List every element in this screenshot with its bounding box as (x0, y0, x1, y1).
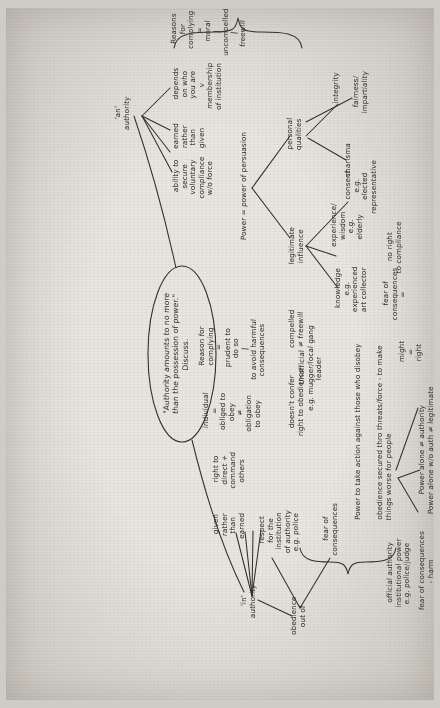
node-charisma: charisma (344, 136, 353, 185)
node-earned-rather-than-given: earned rather than given (172, 113, 206, 161)
mind-map-stage: "Authority amounts to no more than the p… (0, 0, 440, 708)
node-fear-consequences-harm: fear of consequences - harm (418, 527, 435, 614)
node-obedience-secured: obedience secured thro threats/force - t… (376, 323, 393, 520)
node-respect-institution: respect for the institution of authority… (258, 498, 301, 563)
node-legitimate-influence: legitimate influence (288, 219, 305, 272)
node-power-to-take-action: Power to take action against those who d… (354, 330, 363, 521)
node-no-right-to-compliance: no right to compliance (386, 213, 403, 280)
node-reasons-for-complying: Reasons for complying = moral | uncompel… (170, 0, 247, 63)
branch-an-authority-label: 'an' authority (114, 87, 131, 138)
node-might-is-right: might = right (398, 329, 424, 375)
node-fairness-impartiality: fairness/ impartiality (352, 63, 369, 120)
paper-sheet: "Authority amounts to no more than the p… (6, 8, 434, 700)
branch-obedience-label: obedience out of (290, 587, 307, 644)
node-personal-qualities: personal qualities (286, 107, 303, 160)
node-official-authority: official authority institutional power e… (386, 533, 412, 613)
node-fear-of-consequences: fear of consequences (322, 497, 339, 560)
node-reason-for-complying: Reason for complying = prudent to do so … (198, 312, 267, 385)
branch-power-alone-label: Power alone ≠ authority Power alone w/o … (418, 369, 435, 530)
node-given-rather-than-earned: given rather than earned (212, 501, 246, 549)
scanned-page: "Authority amounts to no more than the p… (0, 0, 440, 708)
node-integrity: integrity (332, 66, 341, 111)
node-depends-on-who: depends on who you are v membership of i… (172, 52, 224, 118)
branch-in-authority-label: 'in' authority (240, 571, 257, 630)
central-topic: "Authority amounts to no more than the p… (162, 283, 190, 425)
branch-power-persuasion-label: Power = power of persuasion (240, 116, 249, 257)
node-individual-obliged: individual = obliged to obey ≠ obligatio… (202, 382, 262, 442)
node-knowledge: knowledge e.g. experienced art collector (334, 255, 368, 323)
node-unofficial: Unofficial e.g. mugger/local gang leader (298, 313, 324, 423)
node-right-to-direct: right to direct + command others (212, 443, 246, 497)
